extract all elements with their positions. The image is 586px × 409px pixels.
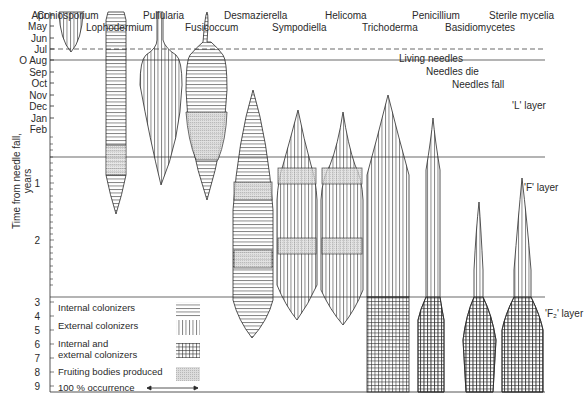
needles-die-label: Needles die <box>426 66 479 77</box>
tick-month: Dec <box>17 101 47 112</box>
genus-label: Penicillium <box>412 10 460 21</box>
legend-external: External colonizers <box>58 320 138 331</box>
tick-year: 4 <box>10 311 40 322</box>
legend-fruiting: Fruiting bodies produced <box>58 366 163 377</box>
tick-year: 9 <box>10 381 40 392</box>
y-axis-label: Time from needle fall, years <box>11 121 33 241</box>
legend-occurrence: 100 % occurrence <box>58 382 135 393</box>
tick-month: Jun <box>17 33 47 44</box>
genus-label: Pullularia <box>143 10 184 21</box>
lophodermium-shape <box>106 12 126 214</box>
f2-layer-label: 'F₂' layer <box>545 308 583 319</box>
needles-fall-label: Needles fall <box>452 79 504 90</box>
tick-month: O Aug <box>17 55 47 66</box>
tick-year: 7 <box>10 353 40 364</box>
legend-internal: Internal colonizers <box>58 302 135 313</box>
genus-label: Trichoderma <box>362 22 418 33</box>
tick-year: 8 <box>10 367 40 378</box>
genus-label: Desmazierella <box>224 10 287 21</box>
genus-label: Lophodermium <box>86 22 153 33</box>
living-needles-label: Living needles <box>399 53 463 64</box>
tick-year: 6 <box>10 339 40 350</box>
helicoma-shape <box>321 112 363 325</box>
trichoderma-shape <box>367 95 409 392</box>
l-layer-label: 'L' layer <box>512 100 546 111</box>
sterile-mycelia-shape <box>502 178 543 392</box>
tick-month: Apr <box>17 10 47 21</box>
desmazierella-shape <box>233 90 273 338</box>
tick-month: Oct <box>17 78 47 89</box>
genus-label: Fusicoccum <box>185 22 238 33</box>
tick-month: May <box>17 21 47 32</box>
genus-label: Sterile mycelia <box>489 10 554 21</box>
tick-month: Jul <box>17 44 47 55</box>
tick-year: 3 <box>10 297 40 308</box>
tick-month: Nov <box>17 90 47 101</box>
sympodiella-shape <box>277 110 317 320</box>
genus-label: Sympodiella <box>272 22 326 33</box>
tick-year: 5 <box>10 325 40 336</box>
legend-both-line2: external colonizers <box>58 349 137 360</box>
pullularia-shape <box>140 12 182 185</box>
tick-month: Sep <box>17 67 47 78</box>
fusicoccum-shape <box>186 12 227 200</box>
genus-label: Helicoma <box>325 10 367 21</box>
legend-both-line1: Internal and <box>58 338 108 349</box>
penicillium-shape <box>418 118 444 392</box>
f-layer-label: 'F' layer <box>524 182 558 193</box>
genus-label: Basidiomycetes <box>445 22 515 33</box>
